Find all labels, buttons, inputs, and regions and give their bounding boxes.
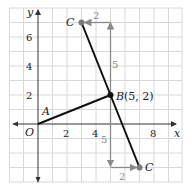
y-tick-4: 4 <box>26 61 32 72</box>
point-c-upper-label: C <box>66 16 75 29</box>
y-tick-6: 6 <box>26 32 32 43</box>
point-b <box>108 92 114 98</box>
y-axis-label: y <box>26 6 34 19</box>
x-axis-label: x <box>174 127 181 140</box>
point-b-label: B <box>115 90 124 103</box>
rise-down-label: 5 <box>101 134 107 145</box>
point-c-lower <box>137 165 143 171</box>
point-c-upper <box>79 20 85 26</box>
x-axis-left-arrow-icon <box>12 122 18 127</box>
run-down-label: 2 <box>119 171 125 182</box>
x-tick-4: 4 <box>92 128 98 139</box>
run-up-label: 2 <box>93 10 99 21</box>
coordinate-diagram: x y O 2 4 8 6 4 2 5 2 5 2 A B (5, 2) C C <box>0 0 192 189</box>
x-tick-8: 8 <box>150 128 156 139</box>
grid <box>10 8 183 182</box>
point-c-lower-label: C <box>145 161 154 174</box>
point-b-coords: (5, 2) <box>124 90 154 103</box>
y-tick-2: 2 <box>26 90 32 101</box>
point-a-label: A <box>41 105 50 118</box>
x-tick-2: 2 <box>63 128 69 139</box>
origin-label: O <box>25 126 34 139</box>
rise-up-label: 5 <box>112 59 118 70</box>
